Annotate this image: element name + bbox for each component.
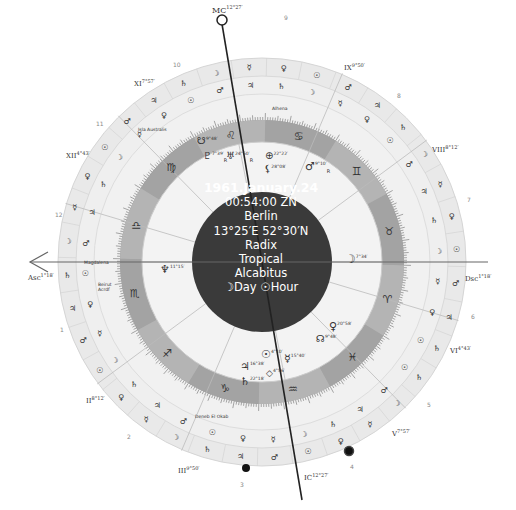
decan-ruler-icon: ♀ [118, 393, 124, 402]
decan-ruler-icon: ♄ [180, 79, 187, 88]
planet-vertex[interactable]: ⊕22°22′ [265, 150, 288, 161]
planet-saturn[interactable]: ♄22°18′ [240, 375, 265, 388]
cusp-label-viii: VIII8°12′ [432, 144, 459, 154]
decan-ruler-icon: ☽ [65, 237, 72, 246]
term-ruler-icon: ♀ [364, 115, 370, 124]
decan-ruler-icon: ☿ [368, 420, 373, 429]
decan-ruler-icon: ♄ [416, 373, 423, 382]
term-ruler-icon: ☿ [97, 329, 102, 338]
house-number-12: 12 [55, 211, 63, 218]
planet-mars[interactable]: ♂9°10′R [305, 160, 330, 174]
sign-cancer-icon: ♋ [294, 130, 304, 143]
decan-ruler-icon: ♂ [345, 83, 352, 92]
cusp-label-ix: IX9°50′ [344, 62, 365, 72]
fixed-star-isla-australis: Isla Australis [138, 127, 167, 132]
term-ruler-icon: ♀ [161, 111, 167, 120]
asc-label: Asc1°18′ [28, 272, 54, 282]
decan-ruler-icon: ♄ [433, 344, 440, 353]
decan-ruler-icon: ♀ [337, 437, 343, 446]
term-ruler-icon: ☽ [308, 88, 315, 97]
decan-ruler-icon: ☉ [96, 366, 103, 375]
decan-ruler-icon: ♂ [80, 336, 87, 345]
decan-ruler-icon: ♂ [271, 453, 278, 462]
term-ruler-icon: ♄ [278, 82, 285, 91]
decan-ruler-icon: ☿ [438, 180, 443, 189]
chart-info: 1961.January.24 00:54:00 ZN Berlin 13°25… [201, 181, 321, 295]
planet-south-node[interactable]: ☋9°48′ [197, 135, 218, 146]
term-ruler-icon: ♀ [240, 434, 246, 443]
dsc-label: Dsc1°18′ [465, 273, 491, 283]
house-number-8: 8 [397, 92, 401, 99]
term-ruler-icon: ☉ [417, 336, 424, 345]
decan-ruler-icon: ♃ [150, 96, 157, 105]
planet-north-node[interactable]: ☊9°48′ [316, 333, 337, 344]
term-ruler-icon: ♄ [130, 380, 137, 389]
term-ruler-icon: ♂ [216, 86, 223, 95]
planet-lilith[interactable]: ⚸28°08′ [264, 163, 286, 174]
planet-pluto[interactable]: ♇7°39′R [203, 150, 227, 163]
decan-ruler-icon: ♀ [84, 172, 90, 181]
chart-coords: 13°25′E 52°30′N [201, 224, 321, 238]
chart-place: Berlin [201, 209, 321, 223]
decan-ruler-icon: ♀ [449, 212, 455, 221]
planet-venus[interactable]: ♀20°58′ [329, 320, 352, 333]
house-number-2: 2 [127, 433, 131, 440]
fixed-star-magdalena: Magdalena [84, 260, 109, 265]
fixed-star-alhena: Alhena [272, 106, 288, 111]
sign-gemini-icon: ♊ [352, 165, 362, 178]
decan-ruler-icon: ♀ [280, 64, 286, 73]
house-number-1: 1 [60, 326, 64, 333]
term-ruler-icon: ♃ [89, 208, 96, 217]
mc-label: MC12°27′ [212, 4, 243, 15]
house-number-4: 4 [350, 463, 354, 470]
house-number-11: 11 [96, 120, 104, 127]
term-ruler-icon: ♂ [381, 386, 388, 395]
sign-capricorn-icon: ♑ [220, 382, 230, 395]
term-ruler-icon: ☉ [386, 136, 393, 145]
term-ruler-icon: ♄ [430, 216, 437, 225]
planet-uranus[interactable]: ♅24°50′R [226, 150, 253, 163]
decan-ruler-icon: ♄ [204, 445, 211, 454]
term-ruler-icon: ♄ [100, 180, 107, 189]
decan-ruler-icon: ♃ [446, 313, 453, 322]
sign-libra-icon: ♎ [131, 219, 141, 232]
sign-scorpio-icon: ♏ [130, 287, 140, 300]
term-ruler-icon: ☉ [82, 269, 89, 278]
house-number-6: 6 [471, 313, 475, 320]
term-ruler-icon: ♄ [330, 420, 337, 429]
term-ruler-icon: ☿ [435, 277, 440, 286]
planet-marker-icon [345, 447, 354, 456]
chart-house-system: Alcabitus [201, 266, 321, 280]
term-ruler-icon: ♃ [247, 81, 254, 90]
cusp-label-v: V7°57′ [392, 428, 410, 438]
planet-part-of-fortune[interactable]: ◇4°56′ [266, 368, 285, 378]
term-ruler-icon: ♂ [180, 417, 187, 426]
ic-label: IC12°27′ [304, 472, 329, 482]
sign-aquarius-icon: ♒ [288, 383, 298, 396]
planet-mercury[interactable]: ☿15°40′ [284, 352, 306, 365]
cusp-label-ii: II8°12′ [86, 395, 105, 405]
decan-ruler-icon: ☿ [72, 203, 77, 212]
decan-ruler-icon: ☉ [453, 245, 460, 254]
house-number-10: 10 [173, 61, 181, 68]
decan-ruler-icon: ♄ [399, 123, 406, 132]
decan-ruler-icon: ☉ [101, 143, 108, 152]
decan-ruler-icon: ☿ [247, 63, 252, 72]
decan-ruler-icon: ♂ [452, 279, 459, 288]
decan-ruler-icon: ♄ [64, 271, 71, 280]
term-ruler-icon: ♃ [357, 405, 364, 414]
decan-ruler-icon: ☽ [421, 150, 428, 159]
planet-neptune[interactable]: ♆11°15′ [160, 263, 185, 276]
cusp-label-vi: VI4°43′ [450, 345, 471, 355]
house-number-5: 5 [427, 401, 431, 408]
sign-taurus-icon: ♉ [384, 225, 394, 238]
chart-date: 1961.January.24 [201, 181, 321, 195]
term-ruler-icon: ☉ [187, 96, 194, 105]
sign-sagittarius-icon: ♐ [162, 347, 172, 360]
term-ruler-icon: ♀ [87, 300, 93, 309]
decan-ruler-icon: ☽ [393, 399, 400, 408]
sign-pisces-icon: ♓ [348, 351, 358, 364]
planet-jupiter[interactable]: ♃16°38′ [240, 360, 265, 373]
term-ruler-icon: ♀ [429, 308, 435, 317]
planet-moon[interactable]: ☽7°34′ [345, 252, 368, 266]
